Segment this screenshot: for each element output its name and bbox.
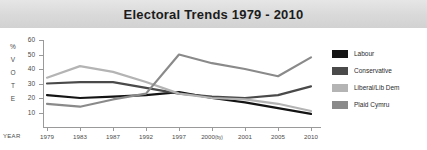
legend-swatch-icon [332,50,348,58]
y-tick-label: 40 [21,65,35,72]
x-tick-label: 1979 [40,133,54,140]
series-line-conservative [47,82,311,98]
y-tick-label: 20 [21,94,35,101]
chart-screenshot: Electoral Trends 1979 - 2010 % V O T E Y… [0,0,427,150]
y-tick-label: 10 [21,109,35,116]
y-tick-label: 60 [21,36,35,43]
x-tick-label: 2000(by) [201,133,223,140]
legend: LabourConservativeLiberal/Lib DemPlaid C… [332,45,424,113]
y-axis-title-char: E [11,92,15,105]
y-tick-label: 50 [21,51,35,58]
legend-item[interactable]: Plaid Cymru [332,96,424,113]
y-axis-title-char: O [10,66,15,79]
x-tick [146,127,147,131]
y-tick-label: 30 [21,80,35,87]
x-tick [179,127,180,131]
legend-item-label: Liberal/Lib Dem [354,84,400,91]
plot-area: 102030405060 197919831987199219972000(by… [43,40,321,127]
series-line-plaid-cymru [47,55,311,107]
title-banner: Electoral Trends 1979 - 2010 [0,0,427,28]
x-tick [80,127,81,131]
legend-item[interactable]: Liberal/Lib Dem [332,79,424,96]
x-tick [311,127,312,131]
x-axis-line [43,127,321,128]
legend-swatch-icon [332,101,348,109]
y-axis-title-char: V [11,53,15,66]
x-tick [245,127,246,131]
legend-item[interactable]: Conservative [332,62,424,79]
x-tick [47,127,48,131]
legend-item-label: Conservative [354,67,392,74]
legend-item-label: Plaid Cymru [354,101,389,108]
x-tick-label: 1997 [172,133,186,140]
page-title: Electoral Trends 1979 - 2010 [124,7,304,22]
y-axis-title-char: T [11,79,15,92]
legend-swatch-icon [332,67,348,75]
x-axis-title: YEAR [3,133,21,139]
x-tick-label: 1992 [139,133,153,140]
legend-item-label: Labour [354,50,374,57]
x-tick-label: 2001 [238,133,252,140]
x-tick-label: 2010 [304,133,318,140]
x-tick-label: 1983 [73,133,87,140]
x-tick-label: 1987 [106,133,120,140]
x-tick-label: 2005 [271,133,285,140]
x-tick [212,127,213,131]
legend-item[interactable]: Labour [332,45,424,62]
x-tick [278,127,279,131]
series-lines [43,40,321,127]
x-tick [113,127,114,131]
y-axis-title: % V O T E [6,40,20,105]
y-axis-title-char: % [10,40,16,53]
legend-swatch-icon [332,84,348,92]
